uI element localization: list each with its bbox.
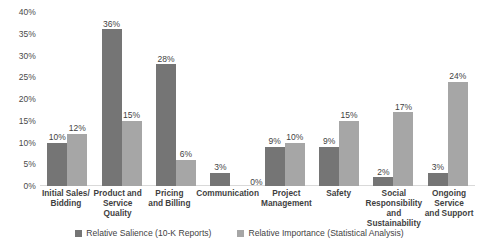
legend-label: Relative Importance (Statistical Analysi… (248, 228, 403, 238)
bar-value-label: 2% (377, 168, 389, 177)
y-axis-tick-label: 0% (0, 181, 36, 191)
bar-group: 3%24% (421, 12, 475, 186)
category-label: Safety (313, 188, 365, 228)
bar-chart: 40%35%30%25%20%15%10%5%0% 10%12%36%15%28… (0, 0, 479, 249)
category-label-line: Initial Sales/ (41, 188, 91, 198)
category-label-line: Product and (93, 188, 143, 198)
bar[interactable]: 24% (448, 82, 468, 186)
y-axis-tick-label: 15% (0, 116, 36, 126)
category-label: SocialResponsibility andSustainability (364, 188, 423, 228)
bar-group-bars: 9%10% (258, 12, 312, 186)
bar-slot: 2% (373, 12, 393, 186)
bar-slot: 3% (428, 12, 448, 186)
category-label-line: Pricing (145, 188, 195, 198)
y-axis-tick-label: 10% (0, 138, 36, 148)
category-label: ProjectManagement (260, 188, 313, 228)
bar[interactable]: 3% (428, 173, 448, 186)
category-label-line: and Support (424, 208, 474, 218)
bar[interactable]: 2% (373, 177, 393, 186)
bar[interactable]: 10% (285, 143, 305, 187)
bar-slot: 9% (265, 12, 285, 186)
bar-value-label: 3% (432, 163, 444, 172)
category-label-line: Sustainability (365, 218, 422, 228)
bar[interactable]: 6% (176, 160, 196, 186)
y-axis-tick-label: 25% (0, 72, 36, 82)
bar-group-bars: 28%6% (149, 12, 203, 186)
category-label-line: Bidding (41, 198, 91, 208)
bar-value-label: 9% (269, 137, 281, 146)
category-label-line: Communication (196, 188, 259, 198)
category-label-line: and Billing (145, 198, 195, 208)
y-axis: 40%35%30%25%20%15%10%5%0% (0, 12, 36, 186)
category-label-line: Service (424, 198, 474, 208)
bar[interactable]: 12% (67, 134, 87, 186)
category-label-line: Service Quality (93, 198, 143, 218)
y-axis-tick-label: 20% (0, 94, 36, 104)
category-label-line: Responsibility and (365, 198, 422, 218)
bar-value-label: 3% (214, 163, 226, 172)
bar-slot: 15% (122, 12, 142, 186)
chart-legend: Relative Salience (10-K Reports)Relative… (0, 228, 479, 238)
bar[interactable]: 9% (319, 147, 339, 186)
bar-value-label: 15% (341, 111, 358, 120)
category-label-line: Ongoing (424, 188, 474, 198)
category-label: Communication (195, 188, 260, 228)
bar-groups: 10%12%36%15%28%6%3%0%9%10%9%15%2%17%3%24… (40, 12, 475, 186)
bar[interactable]: 17% (393, 112, 413, 186)
legend-item[interactable]: Relative Salience (10-K Reports) (75, 228, 211, 238)
bar-value-label: 24% (449, 72, 466, 81)
y-axis-tick-label: 5% (0, 159, 36, 169)
bar-slot: 36% (102, 12, 122, 186)
legend-swatch-icon (75, 230, 82, 237)
category-label-line: Project (261, 188, 312, 198)
bar-group-bars: 3%24% (421, 12, 475, 186)
bar-value-label: 10% (49, 133, 66, 142)
category-label: Pricingand Billing (144, 188, 196, 228)
y-axis-tick-label: 30% (0, 51, 36, 61)
legend-swatch-icon (237, 230, 244, 237)
category-label: Initial Sales/Bidding (40, 188, 92, 228)
category-label: Product andService Quality (92, 188, 144, 228)
category-label: OngoingServiceand Support (423, 188, 475, 228)
bar-group: 36%15% (94, 12, 148, 186)
bar-value-label: 15% (123, 111, 140, 120)
bar-value-label: 10% (286, 133, 303, 142)
bar-group: 9%10% (258, 12, 312, 186)
legend-item[interactable]: Relative Importance (Statistical Analysi… (237, 228, 403, 238)
bar[interactable]: 15% (122, 121, 142, 186)
category-axis-labels: Initial Sales/BiddingProduct andService … (40, 188, 475, 228)
bar-value-label: 12% (69, 124, 86, 133)
bar[interactable]: 15% (339, 121, 359, 186)
y-axis-tick-label: 35% (0, 29, 36, 39)
category-label-line: Social (365, 188, 422, 198)
bar-value-label: 6% (180, 150, 192, 159)
bar-slot: 3% (210, 12, 230, 186)
y-axis-tick-label: 40% (0, 7, 36, 17)
bar[interactable]: 10% (47, 143, 67, 187)
bar-slot: 0% (230, 12, 250, 186)
bar-value-label: 36% (103, 20, 120, 29)
bar-value-label: 17% (395, 103, 412, 112)
bar-slot: 12% (67, 12, 87, 186)
legend-label: Relative Salience (10-K Reports) (86, 228, 211, 238)
bar-group: 2%17% (366, 12, 420, 186)
bar-group: 10%12% (40, 12, 94, 186)
bar-group-bars: 9%15% (312, 12, 366, 186)
bar-group-bars: 2%17% (366, 12, 420, 186)
bar-slot: 15% (339, 12, 359, 186)
bar-group: 3%0% (203, 12, 257, 186)
bar-slot: 17% (393, 12, 413, 186)
bar[interactable]: 36% (102, 29, 122, 186)
bar-slot: 10% (47, 12, 67, 186)
bar-slot: 9% (319, 12, 339, 186)
bar[interactable]: 28% (156, 64, 176, 186)
category-label-line: Management (261, 198, 312, 208)
bar[interactable]: 9% (265, 147, 285, 186)
bar-group-bars: 3%0% (203, 12, 257, 186)
category-label-line: Safety (314, 188, 364, 198)
bar-value-label: 9% (323, 137, 335, 146)
bar[interactable]: 3% (210, 173, 230, 186)
bar-slot: 6% (176, 12, 196, 186)
bar-value-label: 28% (157, 55, 174, 64)
bar-group-bars: 10%12% (40, 12, 94, 186)
